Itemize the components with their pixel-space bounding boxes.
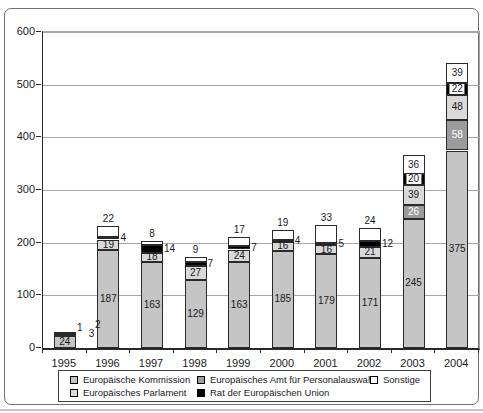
data-label: 2 bbox=[95, 320, 101, 330]
x-tick-label-2004: 2004 bbox=[444, 357, 468, 369]
bar-2002-segment-5 bbox=[359, 228, 381, 241]
x-tick-label-1996: 1996 bbox=[95, 357, 119, 369]
x-axis-tick bbox=[216, 348, 217, 353]
data-label: 16 bbox=[277, 241, 288, 251]
x-tick-label-1999: 1999 bbox=[226, 357, 250, 369]
x-axis-tick bbox=[434, 348, 435, 353]
bar-1998-segment-4 bbox=[185, 262, 207, 266]
x-tick-label-1997: 1997 bbox=[139, 357, 163, 369]
legend-label: Sonstige bbox=[383, 374, 420, 386]
legend-label: Europäisches Parlament bbox=[83, 387, 187, 399]
legend-label: Rat der Europäischen Union bbox=[210, 387, 329, 399]
grid-line-600 bbox=[43, 32, 479, 33]
plot-area: 2413218719422163181481292779163247171851… bbox=[42, 31, 480, 350]
y-tick-label: 200 bbox=[7, 236, 35, 248]
x-tick-label-2003: 2003 bbox=[400, 357, 424, 369]
y-axis-tick bbox=[36, 136, 41, 137]
y-tick-label: 300 bbox=[7, 183, 35, 195]
data-label: 7 bbox=[208, 259, 214, 269]
x-axis-tick bbox=[478, 348, 479, 353]
bar-2000-segment-5 bbox=[272, 230, 294, 240]
data-label: 179 bbox=[318, 296, 335, 306]
data-label: 48 bbox=[452, 102, 463, 112]
chart-legend: Europäische KommissionEuropäisches Amt f… bbox=[58, 370, 431, 402]
data-label: 187 bbox=[100, 294, 117, 304]
y-axis-tick bbox=[36, 242, 41, 243]
data-label: 185 bbox=[274, 294, 291, 304]
x-axis-tick bbox=[391, 348, 392, 353]
data-label: 16 bbox=[321, 245, 332, 255]
y-axis-tick bbox=[36, 294, 41, 295]
data-label: 27 bbox=[190, 268, 201, 278]
data-label: 19 bbox=[103, 240, 114, 250]
bar-1996-segment-5 bbox=[97, 226, 119, 238]
data-label: 39 bbox=[408, 190, 419, 200]
x-axis-tick bbox=[42, 348, 43, 353]
x-axis-tick bbox=[86, 348, 87, 353]
data-label: 39 bbox=[452, 68, 463, 78]
data-label: 26 bbox=[408, 207, 419, 217]
data-label: 22 bbox=[450, 84, 465, 94]
chart-figure: 2413218719422163181481292779163247171851… bbox=[4, 8, 479, 405]
data-label: 8 bbox=[149, 229, 155, 239]
bar-1997-segment-5 bbox=[141, 241, 163, 245]
y-tick-label: 500 bbox=[7, 78, 35, 90]
x-axis-tick bbox=[173, 348, 174, 353]
data-label: 5 bbox=[338, 239, 344, 249]
data-label: 245 bbox=[405, 278, 422, 288]
legend-swatch bbox=[197, 376, 205, 384]
data-label: 24 bbox=[364, 216, 375, 226]
y-axis-tick bbox=[36, 84, 41, 85]
data-label: 21 bbox=[364, 247, 375, 257]
y-axis-tick bbox=[36, 189, 41, 190]
bar-1998-segment-5 bbox=[185, 257, 207, 262]
grid-line-500 bbox=[43, 85, 479, 86]
data-label: 17 bbox=[234, 225, 245, 235]
y-tick-label: 400 bbox=[7, 130, 35, 142]
data-label: 18 bbox=[146, 252, 157, 262]
y-tick-label: 100 bbox=[7, 288, 35, 300]
legend-swatch bbox=[70, 389, 78, 397]
x-tick-label-2000: 2000 bbox=[270, 357, 294, 369]
data-label: 20 bbox=[406, 174, 421, 184]
y-tick-label: 0 bbox=[7, 341, 35, 353]
y-axis-tick bbox=[36, 31, 41, 32]
data-label: 129 bbox=[187, 309, 204, 319]
data-label: 163 bbox=[231, 300, 248, 310]
data-label: 1 bbox=[77, 323, 83, 333]
data-label: 22 bbox=[103, 214, 114, 224]
data-label: 163 bbox=[144, 300, 161, 310]
x-axis-tick bbox=[347, 348, 348, 353]
bar-2001-segment-5 bbox=[315, 225, 337, 242]
y-tick-label: 600 bbox=[7, 25, 35, 37]
x-axis-tick bbox=[304, 348, 305, 353]
data-label: 36 bbox=[408, 160, 419, 170]
legend-label: Europäische Kommission bbox=[83, 374, 190, 386]
bar-1999-segment-5 bbox=[228, 237, 250, 246]
data-label: 14 bbox=[164, 244, 175, 254]
x-tick-label-1995: 1995 bbox=[52, 357, 76, 369]
x-tick-label-1998: 1998 bbox=[182, 357, 206, 369]
legend-swatch bbox=[197, 389, 205, 397]
data-label: 375 bbox=[449, 244, 466, 254]
x-axis-tick bbox=[129, 348, 130, 353]
legend-label: Europäisches Amt für Personalauswahl bbox=[210, 374, 375, 386]
x-tick-label-2002: 2002 bbox=[357, 357, 381, 369]
y-axis-tick bbox=[36, 347, 41, 348]
legend-swatch bbox=[370, 376, 378, 384]
data-label: 7 bbox=[251, 243, 257, 253]
data-label: 24 bbox=[234, 251, 245, 261]
data-label: 9 bbox=[193, 245, 199, 255]
data-label: 3 bbox=[89, 329, 95, 339]
window-bottom-edge bbox=[0, 409, 483, 411]
data-label: 12 bbox=[382, 239, 393, 249]
legend-swatch bbox=[70, 376, 78, 384]
data-label: 4 bbox=[120, 233, 126, 243]
x-axis-tick bbox=[260, 348, 261, 353]
data-label: 19 bbox=[277, 218, 288, 228]
x-tick-label-2001: 2001 bbox=[313, 357, 337, 369]
grid-line-400 bbox=[43, 137, 479, 138]
data-label: 4 bbox=[295, 236, 301, 246]
data-label: 58 bbox=[452, 130, 463, 140]
data-label: 171 bbox=[362, 298, 379, 308]
